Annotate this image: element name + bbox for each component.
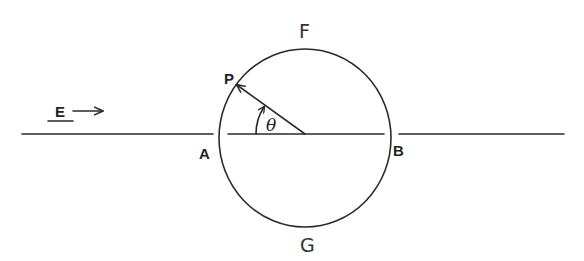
label-point-f: F (299, 20, 310, 42)
angle-arc-theta (256, 107, 264, 134)
label-point-a: A (199, 145, 210, 162)
label-point-b: B (393, 142, 404, 159)
label-point-p: P (224, 70, 234, 87)
label-point-g: G (300, 234, 315, 256)
label-angle-theta: θ (266, 115, 276, 135)
circle (219, 49, 391, 227)
label-field-e: E (55, 103, 65, 120)
diagram-canvas: E P A B F G θ (0, 0, 584, 261)
